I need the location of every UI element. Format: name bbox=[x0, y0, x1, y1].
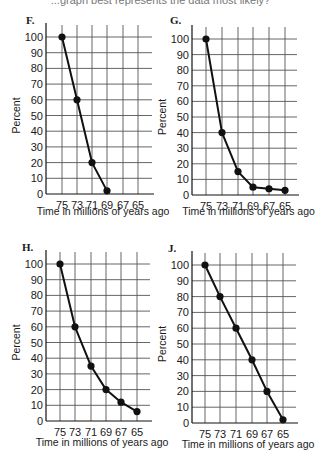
y-tick-label: 30 bbox=[177, 142, 189, 154]
y-tick-label: 0 bbox=[183, 417, 189, 429]
data-point bbox=[87, 362, 94, 369]
data-point bbox=[201, 261, 208, 268]
y-tick-label: 50 bbox=[177, 338, 189, 350]
y-tick-label: 20 bbox=[177, 385, 189, 397]
y-tick-label: 50 bbox=[177, 111, 189, 123]
data-point bbox=[103, 187, 110, 194]
data-point bbox=[133, 408, 140, 415]
y-tick-label: 20 bbox=[177, 158, 189, 170]
data-point bbox=[216, 293, 223, 300]
y-tick-label: 50 bbox=[31, 337, 43, 349]
y-tick-label: 90 bbox=[31, 274, 43, 286]
y-tick-label: 100 bbox=[171, 33, 189, 45]
y-tick-label: 80 bbox=[177, 64, 189, 76]
y-tick-label: 30 bbox=[31, 141, 43, 153]
y-tick-label: 0 bbox=[37, 188, 43, 200]
chart-g: G.0102030405060708090100757371696765Perc… bbox=[156, 14, 315, 217]
data-point bbox=[58, 33, 65, 40]
y-tick-label: 0 bbox=[37, 415, 43, 427]
y-tick-label: 20 bbox=[31, 157, 43, 169]
data-point bbox=[71, 323, 78, 330]
data-point bbox=[249, 184, 256, 191]
y-tick-label: 10 bbox=[31, 399, 43, 411]
data-point bbox=[202, 35, 209, 42]
data-line bbox=[205, 265, 283, 420]
data-point bbox=[281, 187, 288, 194]
panel-label: J. bbox=[168, 242, 177, 254]
y-axis-title: Percent bbox=[156, 326, 168, 362]
y-tick-label: 90 bbox=[177, 49, 189, 61]
y-tick-label: 60 bbox=[31, 321, 43, 333]
data-point bbox=[232, 325, 239, 332]
data-point bbox=[117, 399, 124, 406]
panel-label: F. bbox=[26, 14, 35, 26]
y-tick-label: 70 bbox=[31, 78, 43, 90]
data-point bbox=[234, 168, 241, 175]
y-axis-title: Percent bbox=[156, 99, 168, 135]
y-tick-label: 60 bbox=[31, 94, 43, 106]
x-axis-title: Time in millions of years ago bbox=[182, 205, 315, 217]
y-tick-label: 90 bbox=[177, 275, 189, 287]
data-point bbox=[279, 416, 286, 423]
y-tick-label: 40 bbox=[31, 125, 43, 137]
y-tick-label: 10 bbox=[177, 401, 189, 413]
y-axis-title: Percent bbox=[10, 97, 22, 133]
y-tick-label: 100 bbox=[171, 259, 189, 271]
y-tick-label: 20 bbox=[31, 384, 43, 396]
chart-h: H.0102030405060708090100757371696765Perc… bbox=[10, 241, 168, 448]
y-tick-label: 80 bbox=[31, 289, 43, 301]
y-tick-label: 30 bbox=[31, 368, 43, 380]
data-point bbox=[88, 159, 95, 166]
y-tick-label: 70 bbox=[177, 80, 189, 92]
chart-j: J.0102030405060708090100757371696765Perc… bbox=[156, 242, 314, 450]
data-point bbox=[263, 388, 270, 395]
panel-label: H. bbox=[22, 241, 34, 253]
data-point bbox=[248, 356, 255, 363]
x-axis-title: Time in millions of years ago bbox=[37, 205, 170, 217]
data-point bbox=[56, 260, 63, 267]
data-point bbox=[218, 129, 225, 136]
y-axis-title: Percent bbox=[10, 324, 22, 360]
y-tick-label: 50 bbox=[31, 110, 43, 122]
y-tick-label: 40 bbox=[31, 352, 43, 364]
data-line bbox=[206, 39, 285, 190]
data-point bbox=[102, 386, 109, 393]
data-point bbox=[265, 185, 272, 192]
y-tick-label: 60 bbox=[177, 95, 189, 107]
y-tick-label: 40 bbox=[177, 127, 189, 139]
y-tick-label: 70 bbox=[31, 305, 43, 317]
y-tick-label: 30 bbox=[177, 370, 189, 382]
y-tick-label: 70 bbox=[177, 306, 189, 318]
y-tick-label: 10 bbox=[177, 173, 189, 185]
y-tick-label: 40 bbox=[177, 354, 189, 366]
y-tick-label: 0 bbox=[183, 189, 189, 201]
y-tick-label: 10 bbox=[31, 172, 43, 184]
chart-grid: F.0102030405060708090100757371696765Perc… bbox=[0, 0, 321, 466]
y-tick-label: 100 bbox=[25, 258, 43, 270]
y-tick-label: 80 bbox=[31, 62, 43, 74]
chart-f: F.0102030405060708090100757371696765Perc… bbox=[10, 14, 169, 217]
y-tick-label: 100 bbox=[25, 31, 43, 43]
x-axis-title: Time in millions of years ago bbox=[182, 438, 315, 450]
data-line bbox=[62, 37, 107, 191]
x-axis-title: Time in millions of years ago bbox=[36, 436, 169, 448]
y-tick-label: 90 bbox=[31, 47, 43, 59]
y-tick-label: 60 bbox=[177, 322, 189, 334]
data-point bbox=[73, 96, 80, 103]
y-tick-label: 80 bbox=[177, 291, 189, 303]
panel-label: G. bbox=[170, 14, 182, 26]
